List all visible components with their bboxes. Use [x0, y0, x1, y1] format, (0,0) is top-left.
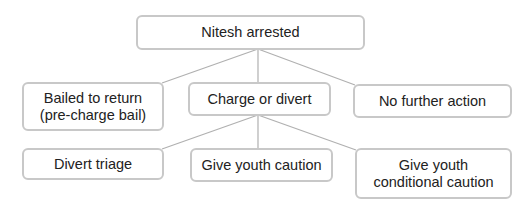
node-give-youth-caution: Give youth caution	[190, 148, 333, 182]
node-label: Bailed to return (pre-charge bail)	[33, 90, 153, 124]
node-label: Divert triage	[54, 156, 132, 173]
node-label: Give youth conditional caution	[364, 157, 504, 191]
node-label: Charge or divert	[208, 91, 312, 108]
node-divert-triage: Divert triage	[22, 148, 164, 180]
edge-root-nfa	[258, 49, 355, 85]
node-label: Nitesh arrested	[201, 24, 299, 41]
node-bailed-to-return: Bailed to return (pre-charge bail)	[22, 82, 164, 131]
edge-root-bailed	[162, 49, 258, 83]
edge-charge-triage	[162, 115, 258, 149]
edge-charge-conditional	[258, 115, 356, 150]
node-label: Give youth caution	[201, 157, 321, 174]
node-no-further-action: No further action	[353, 84, 512, 118]
node-label: No further action	[379, 93, 486, 110]
node-charge-or-divert: Charge or divert	[188, 82, 331, 116]
node-nitesh-arrested: Nitesh arrested	[136, 15, 365, 50]
node-give-youth-conditional-caution: Give youth conditional caution	[355, 148, 512, 199]
